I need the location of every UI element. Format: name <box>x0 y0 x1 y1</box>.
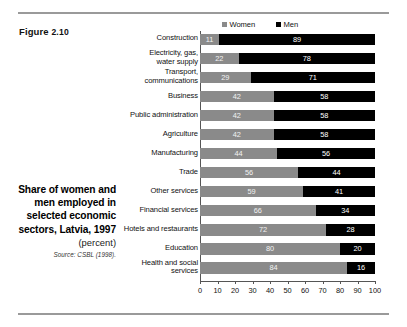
bar-segment-men[interactable]: 41 <box>303 186 375 198</box>
bar-segment-women[interactable]: 44 <box>200 148 277 160</box>
category-label-line: Public administration <box>130 111 198 120</box>
value-axis-tick <box>235 281 236 284</box>
category-label-line: Hotels and restaurants <box>124 225 198 234</box>
bar-segment-women[interactable]: 72 <box>200 224 326 236</box>
category-label-line: Manufacturing <box>151 149 198 158</box>
bar-segment-women[interactable]: 29 <box>200 72 251 84</box>
value-axis-tick-label: 20 <box>231 286 239 295</box>
legend-label: Men <box>284 20 298 29</box>
value-axis-tick-label: 90 <box>353 286 361 295</box>
bar-segment-women[interactable]: 11 <box>200 34 219 46</box>
category-label: Agriculture <box>163 130 198 139</box>
bar-value-women: 44 <box>234 150 242 157</box>
bar-segment-men[interactable]: 58 <box>274 129 376 141</box>
category-label-line: Education <box>165 244 198 253</box>
bar-row[interactable]: 5644 <box>200 167 375 179</box>
bar-segment-men[interactable]: 28 <box>326 224 375 236</box>
figure-page: Figure 2.10 Share of women and men emplo… <box>0 0 407 327</box>
value-axis-tick-label: 100 <box>369 286 381 295</box>
bar-row[interactable]: 4258 <box>200 129 375 141</box>
women-swatch-icon <box>222 22 227 27</box>
bar-row[interactable]: 7228 <box>200 224 375 236</box>
value-axis-tick-label: 80 <box>336 286 344 295</box>
value-axis-tick-label: 30 <box>248 286 256 295</box>
bar-row[interactable]: 2971 <box>200 72 375 84</box>
bar-value-men: 28 <box>346 226 354 233</box>
value-axis-tick <box>218 281 219 284</box>
bar-segment-women[interactable]: 42 <box>200 110 274 122</box>
category-label: Education <box>165 244 198 253</box>
top-divider-rule <box>18 12 389 14</box>
bar-value-men: 58 <box>320 93 328 100</box>
bar-value-men: 89 <box>293 36 301 43</box>
bar-value-men: 78 <box>303 55 311 62</box>
bar-segment-men[interactable]: 20 <box>340 243 375 255</box>
bar-value-women: 42 <box>233 131 241 138</box>
bar-segment-women[interactable]: 84 <box>200 262 347 274</box>
bar-segment-men[interactable]: 16 <box>347 262 375 274</box>
category-label: Electricity, gas,water supply <box>149 49 198 66</box>
bar-value-men: 41 <box>335 188 343 195</box>
bar-segment-men[interactable]: 78 <box>239 53 376 65</box>
bar-row[interactable]: 4456 <box>200 148 375 160</box>
value-axis-tick-label: 50 <box>283 286 291 295</box>
bar-value-men: 58 <box>320 112 328 119</box>
bar-value-men: 16 <box>357 264 365 271</box>
category-label: Manufacturing <box>151 149 198 158</box>
stacked-bar-chart: ConstructionElectricity, gas,water suppl… <box>0 31 407 281</box>
bar-value-women: 29 <box>221 74 229 81</box>
bar-row[interactable]: 6634 <box>200 205 375 217</box>
bar-row[interactable]: 5941 <box>200 186 375 198</box>
men-swatch-icon <box>276 22 281 27</box>
category-label: Public administration <box>130 111 198 120</box>
bar-value-women: 84 <box>269 264 277 271</box>
bar-segment-men[interactable]: 56 <box>277 148 375 160</box>
bar-segment-men[interactable]: 58 <box>274 91 376 103</box>
value-axis-tick <box>270 281 271 284</box>
category-label: Financial services <box>139 206 198 215</box>
bar-row[interactable]: 4258 <box>200 110 375 122</box>
legend-item-men[interactable]: Men <box>276 20 298 29</box>
bar-value-women: 42 <box>233 112 241 119</box>
bar-segment-women[interactable]: 42 <box>200 91 274 103</box>
bar-row[interactable]: 8416 <box>200 262 375 274</box>
bar-segment-men[interactable]: 71 <box>251 72 375 84</box>
bar-segment-women[interactable]: 56 <box>200 167 298 179</box>
value-axis-tick <box>323 281 324 284</box>
bar-segment-men[interactable]: 34 <box>316 205 376 217</box>
bar-value-men: 20 <box>353 245 361 252</box>
value-axis-tick-label: 60 <box>301 286 309 295</box>
category-label-line: Agriculture <box>163 130 198 139</box>
bar-row[interactable]: 1189 <box>200 34 375 46</box>
bar-segment-men[interactable]: 89 <box>219 34 375 46</box>
category-axis-labels: ConstructionElectricity, gas,water suppl… <box>118 31 200 279</box>
bar-value-women: 66 <box>254 207 262 214</box>
bar-segment-men[interactable]: 58 <box>274 110 376 122</box>
chart-legend: WomenMen <box>222 20 298 29</box>
bar-value-women: 42 <box>233 93 241 100</box>
value-axis-tick <box>375 281 376 284</box>
bar-row[interactable]: 8020 <box>200 243 375 255</box>
legend-item-women[interactable]: Women <box>222 20 255 29</box>
category-label: Health and socialservices <box>141 259 198 276</box>
bar-row[interactable]: 4258 <box>200 91 375 103</box>
bar-value-men: 44 <box>332 169 340 176</box>
bar-value-men: 56 <box>322 150 330 157</box>
bar-segment-women[interactable]: 22 <box>200 53 239 65</box>
bottom-divider-rule <box>18 313 389 315</box>
bar-value-women: 80 <box>266 245 274 252</box>
value-axis: 0102030405060708090100 <box>200 281 376 303</box>
bar-segment-women[interactable]: 80 <box>200 243 340 255</box>
bar-segment-women[interactable]: 66 <box>200 205 316 217</box>
category-label: Transport,communications <box>145 68 198 85</box>
bar-value-women: 59 <box>248 188 256 195</box>
category-label: Trade <box>179 168 198 177</box>
bar-segment-men[interactable]: 44 <box>298 167 375 179</box>
bar-value-men: 58 <box>320 131 328 138</box>
value-axis-tick <box>288 281 289 284</box>
value-axis-tick <box>358 281 359 284</box>
bar-segment-women[interactable]: 59 <box>200 186 303 198</box>
bar-value-women: 22 <box>215 55 223 62</box>
bar-segment-women[interactable]: 42 <box>200 129 274 141</box>
bar-row[interactable]: 2278 <box>200 53 375 65</box>
